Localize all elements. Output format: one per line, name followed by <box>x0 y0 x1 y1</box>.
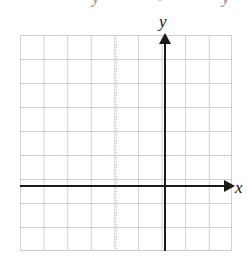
cropped-glyph-artifact-middle: - <box>158 0 162 5</box>
grid-border <box>20 35 232 251</box>
cropped-glyph-artifact-right: y <box>222 0 230 6</box>
grid-area <box>20 35 232 251</box>
grid-dotted-line-top <box>20 35 232 36</box>
cropped-glyph-artifact-left: y <box>92 0 100 6</box>
grid-dotted-line-vertical <box>116 35 117 251</box>
grid-dotted-line-middle <box>20 155 232 156</box>
x-axis-label: x <box>235 179 243 196</box>
x-axis-arrowhead-icon <box>224 180 235 192</box>
y-axis-arrowhead-icon <box>159 33 171 44</box>
x-axis-line <box>20 185 226 187</box>
y-axis-line <box>164 44 166 251</box>
y-axis-label: y <box>159 13 167 30</box>
grid-dotted-line-bottom <box>20 250 232 251</box>
coordinate-plane-figure: y - y x y <box>0 0 250 261</box>
